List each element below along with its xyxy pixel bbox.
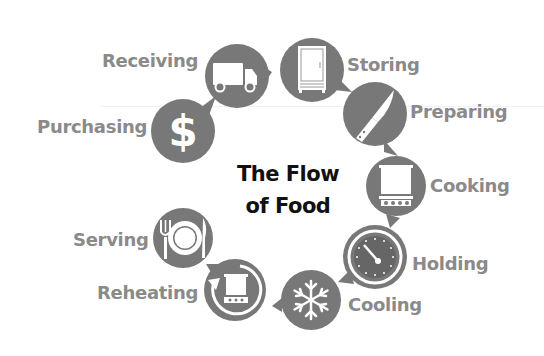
step-holding-circle (343, 225, 407, 289)
step-serving-circle (153, 208, 213, 268)
step-receiving-circle (205, 44, 269, 108)
step-label-purchasing: Purchasing (37, 116, 147, 137)
step-label-cooking: Cooking (430, 175, 510, 196)
step-reheating-circle (204, 259, 266, 321)
diagram-title: The Flow of Food (222, 158, 354, 222)
flow-of-food-diagram: $ (0, 0, 544, 356)
arrow-cooling-to-reheating (272, 298, 282, 312)
step-label-storing: Storing (347, 54, 420, 75)
step-label-receiving: Receiving (102, 50, 198, 71)
refrigerator-icon (298, 46, 326, 93)
step-storing-circle (280, 38, 344, 102)
thermometer-dial-icon (349, 231, 401, 283)
step-label-preparing: Preparing (410, 101, 507, 122)
step-label-reheating: Reheating (97, 282, 198, 303)
step-label-cooling: Cooling (348, 294, 422, 315)
step-label-holding: Holding (412, 253, 488, 274)
step-cooking-circle (366, 156, 426, 216)
title-line-1: The Flow (222, 158, 354, 190)
step-purchasing-circle: $ (151, 99, 215, 163)
step-cooling-circle (281, 270, 341, 330)
dollar-sign-icon: $ (168, 107, 197, 156)
step-label-serving: Serving (73, 229, 149, 250)
step-preparing-circle (343, 82, 407, 146)
arrow-cooking-to-holding (386, 214, 400, 228)
title-line-2: of Food (222, 190, 354, 222)
